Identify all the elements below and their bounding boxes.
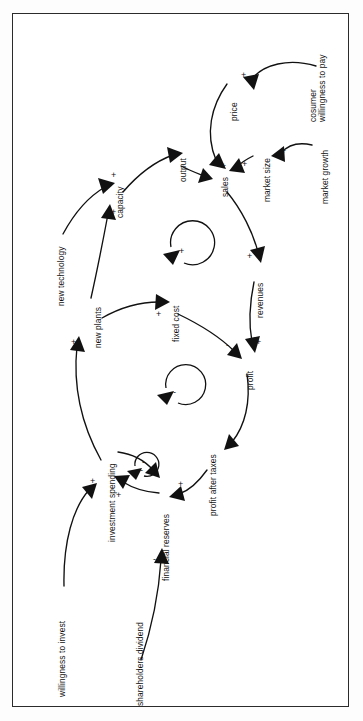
figure-page: cosumer willingness to pay price market … [0,0,363,721]
node-label-sales: sales [220,177,230,197]
link-market-size-to-sales [229,156,253,173]
loop-polarity-reserves: - [140,466,143,475]
loop-polarity-cost: - [173,388,176,397]
node-label-price: price [229,102,239,121]
consumer-willingness-line2: willingness to pay [318,55,327,122]
sign-shareholders-dividend-to-financial-reserves: - [153,555,156,564]
node-label-consumer-willingness: cosumer willingness to pay [309,55,328,122]
sign-investment-spending-to-new-plants: + [71,338,76,347]
sign-market-size-to-sales: + [242,160,247,169]
sign-consumer-willingness-to-price: + [241,71,246,80]
sign-fixed-cost-to-profit: - [226,341,229,350]
sign-sales-to-revenues: + [247,252,252,261]
link-sales-to-revenues [227,192,265,263]
node-label-market-growth: market growth [320,150,330,204]
node-label-new-plants: new plants [93,307,103,348]
node-label-new-technology: new technology [56,246,66,306]
loop-polarity-growth: + [179,247,184,256]
sign-profit-after-taxes-to-financial-reserves: + [178,480,183,489]
link-market-growth-to-market-size [271,144,312,162]
sign-new-plants-to-capacity: + [111,208,116,217]
sign-financial-reserves-to-investment-spending: + [116,491,121,500]
node-label-revenues: revenues [255,283,265,318]
sign-new-technology-to-capacity: + [111,171,116,180]
sign-revenues-to-profit: + [256,338,261,347]
link-investment-spending-to-new-plants [70,336,101,460]
node-label-willingness-to-invest: willingness to invest [57,621,67,697]
loop-indicator-growth [163,221,215,265]
sign-new-plants-to-fixed-cost: + [156,310,161,319]
node-label-market-size: market size [262,158,272,202]
sign-willingness-to-invest-to-investment-spending: + [90,477,95,486]
node-label-profit: profit [245,371,255,390]
sign-market-growth-to-market-size: + [281,147,286,156]
node-label-investment-spending: investment spending [107,463,117,542]
node-label-shareholders-dividend: shareholders dividend [135,622,145,706]
link-fixed-cost-to-profit [178,314,242,359]
node-label-output: output [178,158,188,182]
node-label-profit-after-taxes: profit after taxes [208,454,218,516]
loop-indicator-cost [157,365,206,405]
link-price-to-sales [209,84,227,169]
node-label-fixed-cost: fixed cost [171,306,181,342]
node-label-financial-reserves: financial reserves [161,514,171,581]
diagram-canvas [13,14,350,708]
link-new-technology-to-capacity [63,178,115,234]
sign-price-to-sales: + [221,162,226,171]
sign-profit-to-profit-after-taxes: + [228,438,233,447]
link-willingness-to-invest-to-investment-spending [64,483,97,586]
link-profit-after-taxes-to-financial-reserves [169,470,207,501]
node-label-capacity: capacity [115,186,125,218]
link-capacity-to-output [123,147,183,192]
link-new-plants-to-capacity [91,204,116,298]
diagram-frame: cosumer willingness to pay price market … [12,13,349,707]
link-consumer-willingness-to-price [243,62,316,90]
